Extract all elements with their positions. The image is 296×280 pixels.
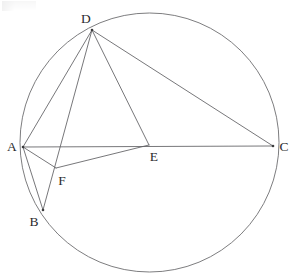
point-label-D: D	[81, 12, 91, 26]
point-label-A: A	[7, 140, 17, 154]
circumcircle	[20, 13, 279, 272]
segment-DB	[43, 30, 92, 210]
vertex-dot-D	[91, 29, 94, 32]
segment-AB	[23, 147, 43, 210]
segment-DE	[92, 30, 149, 145]
vertex-dot-C	[272, 145, 275, 148]
vertex-dot-A	[22, 146, 25, 149]
geometry-canvas	[0, 0, 296, 280]
segment-AD	[23, 30, 92, 147]
geometry-figure: ABCDEF	[0, 0, 296, 280]
point-label-E: E	[150, 150, 158, 164]
point-label-F: F	[58, 174, 66, 188]
segment-AF	[23, 147, 56, 168]
vertex-dot-B	[42, 209, 45, 212]
segment-DC	[92, 30, 273, 146]
point-label-B: B	[29, 215, 38, 229]
segment-FE	[56, 145, 149, 168]
point-label-C: C	[279, 140, 288, 154]
